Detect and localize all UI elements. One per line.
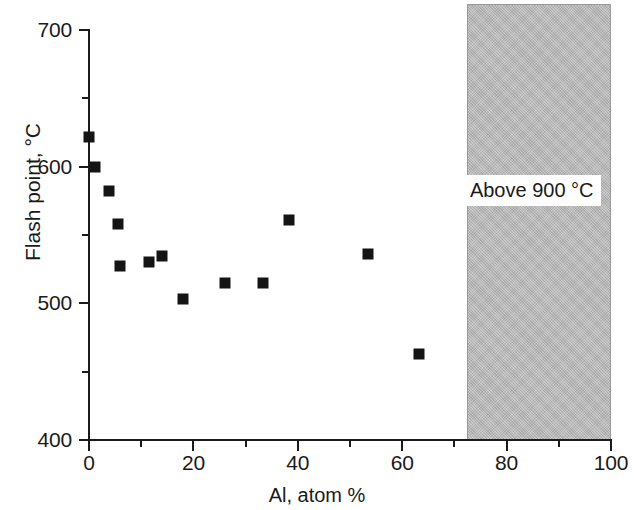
data-point	[143, 257, 154, 268]
x-axis-minor-tick	[558, 441, 560, 447]
x-axis-minor-tick	[453, 441, 455, 447]
x-axis-tick-label: 0	[49, 452, 129, 473]
data-point	[103, 186, 114, 197]
y-axis-tick-label: 400	[0, 429, 72, 450]
data-point	[157, 250, 168, 261]
x-axis-minor-tick	[349, 441, 351, 447]
x-axis-tick	[401, 441, 403, 451]
x-axis-minor-tick	[245, 441, 247, 447]
data-point	[362, 249, 373, 260]
x-axis-tick-label: 100	[571, 452, 634, 473]
x-axis-tick	[506, 441, 508, 451]
x-axis-tick-label: 60	[362, 452, 442, 473]
data-point	[84, 131, 95, 142]
y-axis-title: Flash point, °C	[21, 77, 45, 307]
data-point	[284, 214, 295, 225]
y-axis-minor-tick	[82, 97, 88, 99]
data-point	[177, 294, 188, 305]
y-axis-tick-label: 700	[0, 19, 72, 40]
y-axis-tick	[79, 302, 88, 304]
x-axis-tick-label: 40	[258, 452, 338, 473]
y-axis-minor-tick	[82, 371, 88, 373]
above-900-label: Above 900 °C	[463, 175, 601, 206]
x-axis-tick-label: 80	[467, 452, 547, 473]
x-axis-tick	[297, 441, 299, 451]
x-axis-tick	[192, 441, 194, 451]
data-point	[219, 277, 230, 288]
y-axis-tick	[79, 439, 88, 441]
y-axis-minor-tick	[82, 234, 88, 236]
x-axis-tick-label: 20	[153, 452, 233, 473]
x-axis-tick	[88, 441, 90, 451]
data-point	[413, 348, 424, 359]
data-point	[115, 261, 126, 272]
above-900-shaded-region	[467, 4, 611, 440]
data-point	[258, 277, 269, 288]
y-axis-line	[88, 29, 90, 441]
data-point	[113, 219, 124, 230]
y-axis-tick	[79, 29, 88, 31]
x-axis-minor-tick	[140, 441, 142, 447]
data-point	[90, 161, 101, 172]
x-axis-title: Al, atom %	[0, 484, 634, 507]
x-axis-tick	[610, 441, 612, 451]
y-axis-tick	[79, 166, 88, 168]
flash-point-scatter-chart: Above 900 °C 400500600700020406080100 Fl…	[0, 0, 634, 510]
